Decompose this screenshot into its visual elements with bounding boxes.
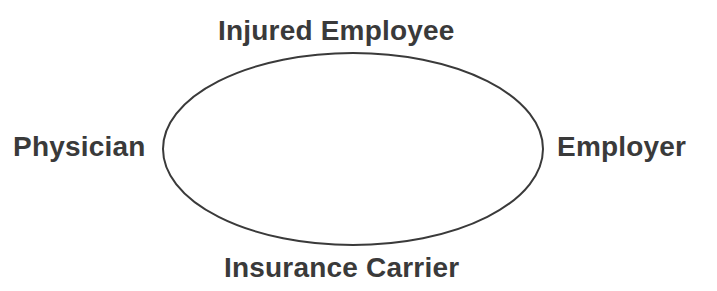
node-label-physician: Physician: [13, 133, 146, 161]
node-label-injured-employee: Injured Employee: [218, 17, 455, 45]
node-label-insurance-carrier: Insurance Carrier: [224, 254, 459, 282]
ellipse-outline: [163, 53, 543, 245]
workers-comp-relationship-diagram: Injured Employee Physician Employer Insu…: [0, 0, 717, 291]
node-label-employer: Employer: [557, 133, 686, 161]
